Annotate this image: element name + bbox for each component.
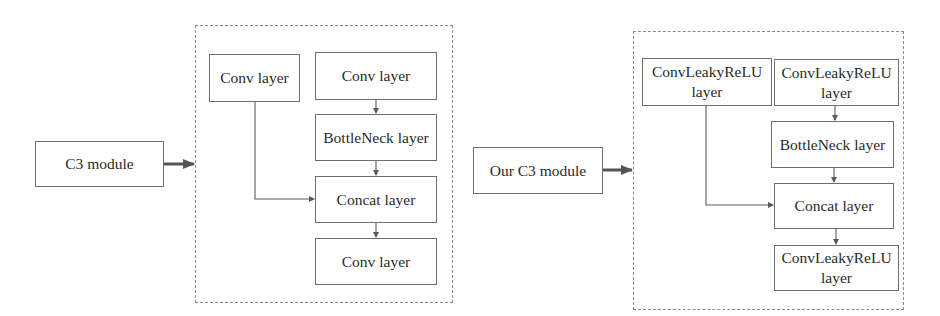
- right-main-convleakyrelu-layer: ConvLeakyReLUlayer: [774, 59, 899, 106]
- left-main-conv-layer: Conv layer: [315, 52, 437, 100]
- right-concat-layer: Concat layer: [774, 183, 894, 229]
- left-branch-conv-layer: Conv layer: [209, 54, 300, 102]
- left-bottleneck-layer: BottleNeck layer: [315, 114, 437, 161]
- c3-module-box: C3 module: [35, 141, 164, 187]
- left-output-conv-layer: Conv layer: [315, 238, 437, 285]
- our-c3-module-box: Our C3 module: [473, 147, 603, 194]
- c3-module-label: C3 module: [65, 154, 133, 174]
- right-bottleneck-layer: BottleNeck layer: [771, 121, 894, 168]
- our-c3-module-label: Our C3 module: [490, 161, 586, 181]
- right-branch-convleakyrelu-layer: ConvLeakyReLUlayer: [642, 58, 772, 106]
- right-output-convleakyrelu-layer: ConvLeakyReLUlayer: [774, 245, 899, 291]
- left-concat-layer: Concat layer: [315, 176, 437, 223]
